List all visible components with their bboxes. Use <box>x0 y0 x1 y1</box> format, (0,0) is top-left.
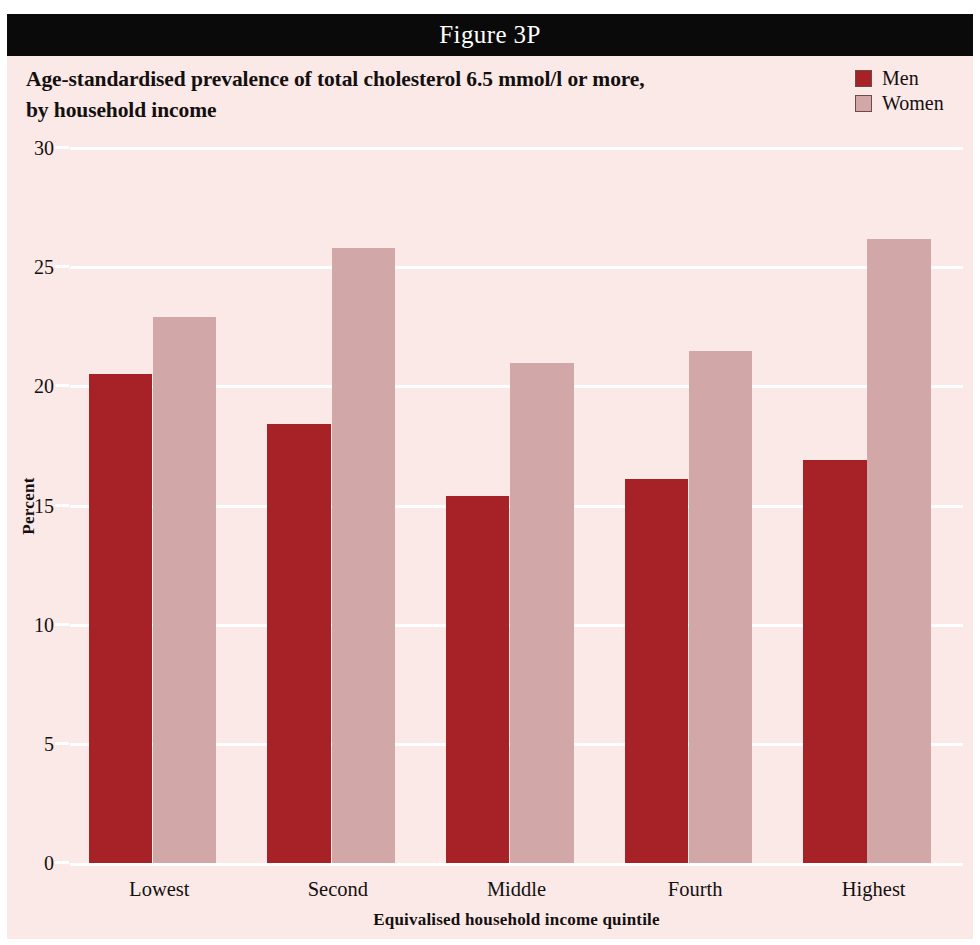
x-axis-title: Equivalised household income quintile <box>70 910 963 930</box>
y-axis-tick-label: 0 <box>44 852 54 875</box>
bar-group <box>70 148 249 863</box>
legend-swatch-women <box>855 95 872 112</box>
y-axis-tick-label: 5 <box>44 732 54 755</box>
top-margin <box>0 0 980 14</box>
bar-groups <box>70 148 963 863</box>
bar-group <box>249 148 428 863</box>
y-axis-tick-mark <box>55 623 69 626</box>
bar-men-fourth <box>625 479 688 863</box>
figure-caption: Figure 3P <box>439 21 541 49</box>
bottom-margin <box>0 939 980 945</box>
bar-group <box>784 148 963 863</box>
bar-women-middle <box>510 363 573 864</box>
bar-men-highest <box>803 460 866 863</box>
bar-men-middle <box>446 496 509 863</box>
x-axis-tick-label: Fourth <box>606 878 785 901</box>
chart-title: Age-standardised prevalence of total cho… <box>26 64 666 125</box>
legend-label-men: Men <box>882 67 919 90</box>
figure-container: Figure 3P Age-standardised prevalence of… <box>0 0 980 945</box>
right-margin <box>973 0 980 945</box>
y-axis-tick-mark <box>55 742 69 745</box>
y-axis-tick-mark <box>55 504 69 507</box>
x-axis-tick-label: Highest <box>784 878 963 901</box>
chart-legend: Men Women <box>855 66 975 116</box>
left-margin <box>0 0 7 945</box>
legend-item-men: Men <box>855 66 975 91</box>
y-axis-tick-mark <box>55 265 69 268</box>
legend-label-women: Women <box>882 92 944 115</box>
x-axis-tick-label: Lowest <box>70 878 249 901</box>
y-axis-tick-mark <box>55 384 69 387</box>
chart-title-line-2: by household income <box>26 95 666 126</box>
figure-caption-bar: Figure 3P <box>0 14 980 56</box>
x-axis-line <box>70 863 963 866</box>
y-axis-tick-label: 10 <box>34 613 54 636</box>
bar-men-second <box>267 424 330 863</box>
bar-men-lowest <box>89 374 152 863</box>
bar-women-fourth <box>689 351 752 863</box>
x-axis-tick-labels: LowestSecondMiddleFourthHighest <box>70 878 963 901</box>
y-axis-tick-label: 30 <box>34 137 54 160</box>
bar-women-highest <box>867 239 930 863</box>
y-axis-tick-mark <box>55 861 69 864</box>
legend-swatch-men <box>855 70 872 87</box>
y-axis-tick-label: 20 <box>34 375 54 398</box>
bar-women-second <box>332 248 395 863</box>
y-axis-tick-label: 15 <box>34 494 54 517</box>
plot-area: 051015202530 <box>70 148 963 863</box>
bar-women-lowest <box>153 317 216 863</box>
x-axis-tick-label: Middle <box>427 878 606 901</box>
bar-group <box>606 148 785 863</box>
legend-item-women: Women <box>855 91 975 116</box>
x-axis-tick-label: Second <box>249 878 428 901</box>
bar-group <box>427 148 606 863</box>
y-axis-tick-mark <box>55 146 69 149</box>
y-axis-tick-label: 25 <box>34 256 54 279</box>
chart-title-line-1: Age-standardised prevalence of total cho… <box>26 64 666 95</box>
